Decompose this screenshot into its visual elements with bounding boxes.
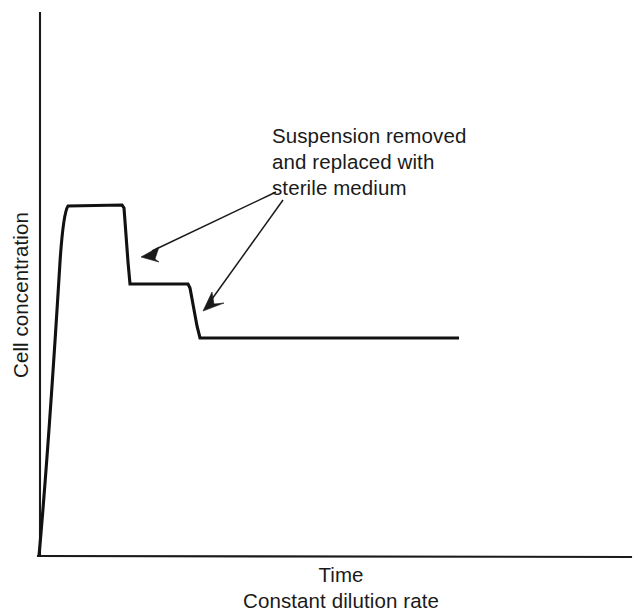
- annotation-arrow-head-2: [203, 292, 224, 311]
- figure-container: Suspension removed and replaced with ste…: [0, 0, 643, 613]
- annotation-line-3: sterile medium: [272, 176, 407, 199]
- x-axis-label-primary: Time: [318, 563, 363, 586]
- annotation-line-1: Suspension removed: [272, 124, 466, 147]
- annotation-arrow-head-1: [141, 247, 159, 262]
- annotation-line-2: and replaced with: [272, 150, 434, 173]
- x-axis-label-secondary: Constant dilution rate: [243, 589, 439, 612]
- y-axis-label: Cell concentration: [9, 212, 32, 378]
- cell-concentration-curve: [39, 205, 459, 556]
- annotation-leader-line-1: [152, 192, 276, 251]
- annotation-leader-line-2: [212, 200, 283, 299]
- x-axis-line: [38, 556, 631, 557]
- chart-canvas: Suspension removed and replaced with ste…: [0, 0, 643, 613]
